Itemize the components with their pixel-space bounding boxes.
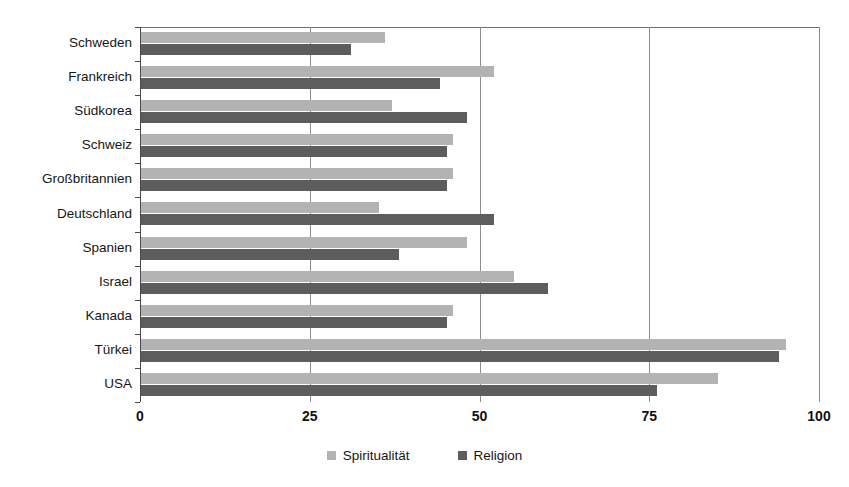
bar-deutschland-spiritualit-t <box>141 202 379 213</box>
chart-title-remnant <box>0 0 849 2</box>
category-label-kanada: Kanada <box>0 308 132 323</box>
bar-s-dkorea-religion <box>141 112 467 123</box>
bar-schweden-religion <box>141 44 351 55</box>
legend-swatch-icon <box>458 451 467 460</box>
category-label-usa: USA <box>0 376 132 391</box>
bar-group <box>141 334 819 368</box>
bar-group <box>141 197 819 231</box>
legend-label: Spiritualität <box>343 448 410 463</box>
category-label-israel: Israel <box>0 274 132 289</box>
bar-group <box>141 266 819 300</box>
value-tick-label-100: 100 <box>807 408 830 424</box>
bar-s-dkorea-spiritualit-t <box>141 100 392 111</box>
legend-item-religion[interactable]: Religion <box>458 448 523 463</box>
bar-schweden-spiritualit-t <box>141 32 385 43</box>
bar-kanada-religion <box>141 317 447 328</box>
legend-swatch-icon <box>327 451 336 460</box>
bar-t-rkei-religion <box>141 351 779 362</box>
bar-group <box>141 368 819 402</box>
bar-group <box>141 95 819 129</box>
bar-group <box>141 300 819 334</box>
category-label-schweiz: Schweiz <box>0 137 132 152</box>
bar-group <box>141 163 819 197</box>
legend-item-spiritualit-t[interactable]: Spiritualität <box>327 448 410 463</box>
bar-spanien-spiritualit-t <box>141 237 467 248</box>
category-axis-labels: SchwedenFrankreichSüdkoreaSchweizGroßbri… <box>0 27 132 402</box>
bar-rows <box>140 27 819 402</box>
plot-area <box>140 27 819 402</box>
bar-group <box>141 129 819 163</box>
bar-kanada-spiritualit-t <box>141 305 453 316</box>
category-label-frankreich: Frankreich <box>0 69 132 84</box>
legend-label: Religion <box>474 448 523 463</box>
value-tick-label-0: 0 <box>136 408 144 424</box>
value-axis-labels: 0255075100 <box>0 408 849 428</box>
bar-chart: SchwedenFrankreichSüdkoreaSchweizGroßbri… <box>0 0 849 487</box>
bar-usa-religion <box>141 385 657 396</box>
category-label-s-dkorea: Südkorea <box>0 103 132 118</box>
bar-schweiz-religion <box>141 146 447 157</box>
bar-spanien-religion <box>141 249 399 260</box>
bar-israel-spiritualit-t <box>141 271 514 282</box>
bar-gro-britannien-spiritualit-t <box>141 168 453 179</box>
bar-frankreich-religion <box>141 78 440 89</box>
category-label-gro-britannien: Großbritannien <box>0 171 132 186</box>
value-tick-label-25: 25 <box>302 408 318 424</box>
bar-group <box>141 61 819 95</box>
bar-israel-religion <box>141 283 548 294</box>
gridline-100 <box>819 27 820 402</box>
bar-usa-spiritualit-t <box>141 373 718 384</box>
bar-schweiz-spiritualit-t <box>141 134 453 145</box>
value-tick-label-75: 75 <box>641 408 657 424</box>
bar-frankreich-spiritualit-t <box>141 66 494 77</box>
category-label-schweden: Schweden <box>0 35 132 50</box>
category-label-spanien: Spanien <box>0 240 132 255</box>
bar-group <box>141 232 819 266</box>
bar-gro-britannien-religion <box>141 180 447 191</box>
bar-t-rkei-spiritualit-t <box>141 339 786 350</box>
bar-deutschland-religion <box>141 214 494 225</box>
category-label-t-rkei: Türkei <box>0 342 132 357</box>
category-axis-baseline <box>140 402 819 403</box>
bar-group <box>141 27 819 61</box>
category-label-deutschland: Deutschland <box>0 206 132 221</box>
chart-legend: SpiritualitätReligion <box>0 448 849 463</box>
value-tick-label-50: 50 <box>472 408 488 424</box>
